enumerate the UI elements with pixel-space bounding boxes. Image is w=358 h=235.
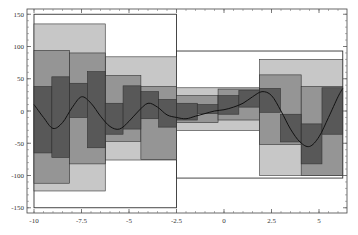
level-3-box [197, 105, 218, 114]
x-tick-label: -5 [126, 217, 132, 225]
y-tick-label: 0 [21, 108, 25, 116]
level-3-box [141, 92, 159, 119]
level-3-box [218, 96, 239, 115]
x-tick-label: 5 [317, 217, 321, 225]
chart-canvas: 150100500-50-100-150 -10-7.5-5-2.502.55 [0, 0, 358, 235]
x-tick-label: 2.5 [267, 217, 276, 225]
level-3-box [301, 124, 322, 164]
y-tick-label: 50 [17, 75, 25, 83]
y-tick-label: 100 [14, 43, 25, 51]
x-tick-label: -7.5 [76, 217, 88, 225]
level-3-box [52, 77, 70, 158]
level-3-box [280, 114, 301, 142]
level-3-box [159, 99, 177, 127]
level-3-box [177, 103, 198, 120]
level-3-box [123, 86, 141, 129]
y-tick-label: -150 [11, 204, 24, 212]
level-3-box [105, 103, 123, 134]
level-3-box [322, 88, 343, 134]
level-3-box [34, 86, 52, 152]
x-tick-label: -2.5 [171, 217, 183, 225]
y-tick-label: -50 [15, 140, 25, 148]
y-tick-label: 150 [14, 11, 25, 19]
decomposition-boxes [34, 14, 343, 208]
level-3-box [70, 83, 88, 117]
x-tick-label: 0 [222, 217, 226, 225]
y-tick-label: -100 [11, 172, 24, 180]
x-tick-label: -10 [29, 217, 39, 225]
